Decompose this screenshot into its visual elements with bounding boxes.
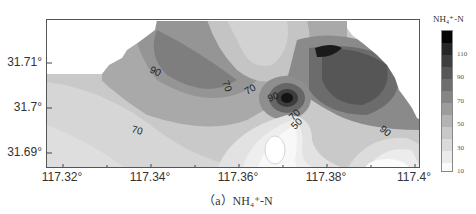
colorbar-tick: 30 xyxy=(457,144,464,152)
contour-map: 90 70 70 90 70 50 70 90 xyxy=(47,20,420,168)
x-tick-label: 117.32° xyxy=(32,170,92,184)
contour-plot: 90 70 70 90 70 50 70 90 xyxy=(46,19,420,168)
y-tick-label: 31.71° xyxy=(2,55,42,69)
colorbar-tick: 10 xyxy=(457,167,464,175)
colorbar-title: NH₄⁺-N xyxy=(433,14,464,24)
x-tick-label: 117.34° xyxy=(120,170,180,184)
x-tick-label: 117.4° xyxy=(384,170,444,184)
x-tick-label: 117.38° xyxy=(296,170,356,184)
figure-caption: （a）NH₄⁺-N xyxy=(0,191,476,209)
x-tick-label: 117.36° xyxy=(208,170,268,184)
colorbar-tick: 50 xyxy=(457,120,464,128)
y-tick-label: 31.7° xyxy=(2,100,42,114)
colorbar-tick: 110 xyxy=(457,50,467,58)
colorbar xyxy=(441,30,453,172)
colorbar-tick: 90 xyxy=(457,73,464,81)
colorbar-tick: 70 xyxy=(457,97,464,105)
y-tick-label: 31.69° xyxy=(2,145,42,159)
